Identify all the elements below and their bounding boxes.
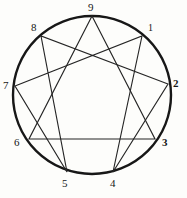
- enneagram-point-label-3: 3: [162, 137, 168, 148]
- enneagram-svg-canvas: [0, 0, 187, 198]
- enneagram-point-label-1: 1: [148, 22, 153, 33]
- enneagram-diagram: 9 1 2 3 4 5 6 7 8: [0, 0, 187, 198]
- enneagram-point-label-4: 4: [110, 178, 116, 189]
- enneagram-point-label-2: 2: [173, 78, 179, 89]
- enneagram-point-label-6: 6: [14, 137, 20, 148]
- enneagram-point-label-5: 5: [62, 178, 68, 189]
- enneagram-point-label-8: 8: [31, 22, 37, 33]
- enneagram-outer-circle: [13, 16, 171, 174]
- enneagram-point-label-7: 7: [3, 80, 9, 91]
- enneagram-point-label-9: 9: [88, 2, 94, 13]
